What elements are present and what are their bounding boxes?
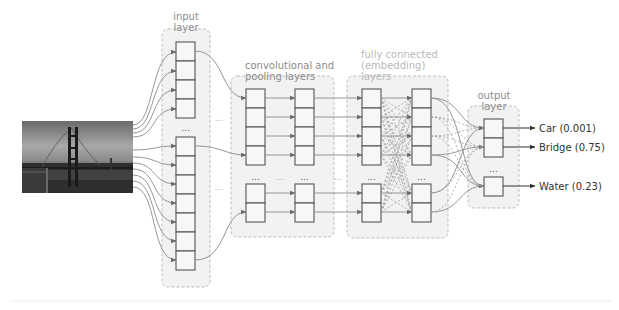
output-label-bridge: Bridge (0.75) xyxy=(539,142,605,153)
cnn-diagram: ... ... ... ... ... ... xyxy=(0,0,619,310)
conv-layer-label-line1: convolutional and xyxy=(245,60,334,71)
fc-layer-label-line3: layers xyxy=(361,71,391,82)
output-layer-label-line1: output xyxy=(478,90,511,101)
output-label-water: Water (0.23) xyxy=(539,181,602,192)
conv-between-ellipsis: ... xyxy=(276,172,285,182)
output-layer-units xyxy=(484,119,503,196)
input-image xyxy=(22,121,133,193)
output-label-car: Car (0.001) xyxy=(539,123,596,134)
input-layer-label-line2: layer xyxy=(173,22,199,33)
fc-layer-label-line1: fully connected xyxy=(361,49,438,60)
conv-col2-ellipsis: ... xyxy=(300,172,309,182)
input-ellipsis: ... xyxy=(181,123,190,133)
fc-layer-label-line2: (embedding) xyxy=(361,60,425,71)
between-ellipsis-1: ... xyxy=(215,113,224,123)
fc-col1-ellipsis: ... xyxy=(367,172,376,182)
output-ellipsis: ... xyxy=(489,164,498,174)
between-ellipsis-2: ... xyxy=(215,182,224,192)
conv-layer-label-line2: pooling layers xyxy=(245,71,315,82)
conv-col1-ellipsis: ... xyxy=(251,172,260,182)
output-layer-label-line2: layer xyxy=(481,101,507,112)
fc-col2-ellipsis: ... xyxy=(417,172,426,182)
input-layer-label-line1: input xyxy=(173,11,199,22)
diagram-canvas: ... ... ... ... ... ... xyxy=(0,0,619,310)
input-layer-units xyxy=(176,42,195,270)
conv-fc-between-ellipsis: ... xyxy=(334,172,343,182)
